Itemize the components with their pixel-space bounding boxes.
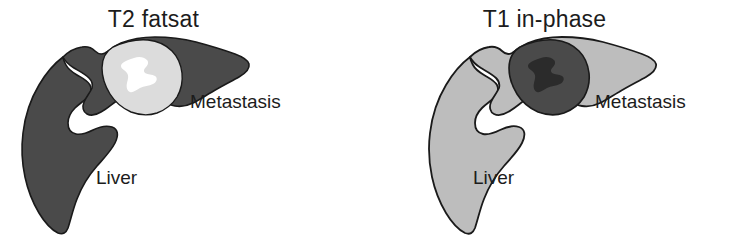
metastasis-label-t1: Metastasis [595, 91, 686, 113]
t1-in-phase-anatomy-diagram [367, 0, 734, 241]
t2-fatsat-anatomy-diagram [0, 0, 367, 241]
liver-label-t2: Liver [96, 167, 137, 189]
liver-label-t1: Liver [473, 167, 514, 189]
liver-mri-figure: T2 fatsat Metastasis Liver T1 in-phase [0, 0, 734, 241]
metastasis-label-t2: Metastasis [190, 91, 281, 113]
panel-t2-fatsat: T2 fatsat Metastasis Liver [0, 0, 367, 241]
panel-t1-in-phase: T1 in-phase Metastasis Liver [367, 0, 734, 241]
